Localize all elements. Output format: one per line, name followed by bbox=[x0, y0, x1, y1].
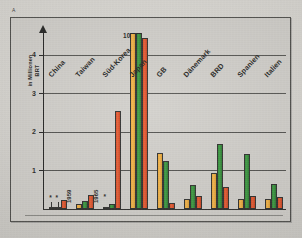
y-axis-tick-label: 2 bbox=[25, 128, 36, 135]
tiny-bar-marker bbox=[51, 202, 52, 208]
value-annotation: 10 bbox=[123, 33, 130, 39]
x-axis-baseline bbox=[43, 209, 286, 210]
y-axis-tick-label: 4 bbox=[25, 51, 36, 58]
bar bbox=[238, 199, 244, 209]
bar bbox=[130, 33, 136, 209]
y-axis-tick-label: 3 bbox=[25, 90, 36, 97]
bar bbox=[223, 187, 229, 208]
bar bbox=[109, 204, 115, 208]
plot-area: in Millionen BRT 1234 ChinaTaiwanSüd-Kor… bbox=[11, 18, 290, 221]
bar bbox=[163, 161, 169, 209]
y-axis-tick-label: 1 bbox=[25, 167, 36, 174]
tiny-bar-marker bbox=[58, 202, 59, 208]
bar bbox=[82, 201, 88, 209]
bar bbox=[169, 203, 175, 208]
figure-page: A in Millionen BRT 1234 ChinaTaiwanSüd-K… bbox=[0, 0, 302, 238]
bar bbox=[190, 185, 196, 208]
frame-bottom-rule bbox=[25, 215, 283, 216]
footnote-marker: * bbox=[104, 194, 107, 200]
bar bbox=[103, 207, 109, 209]
bar-group bbox=[43, 32, 70, 209]
footnote-marker: * bbox=[56, 195, 59, 201]
bar bbox=[244, 154, 250, 209]
figure-marker-label: A bbox=[12, 7, 16, 13]
year-label: 1965 bbox=[93, 189, 99, 202]
bar bbox=[217, 144, 223, 208]
bar bbox=[271, 184, 277, 209]
bar bbox=[184, 199, 190, 209]
bar-group bbox=[124, 32, 151, 209]
bar bbox=[115, 111, 121, 209]
bar bbox=[157, 153, 163, 209]
bar bbox=[250, 196, 256, 209]
bar-group bbox=[205, 32, 232, 209]
bar-group bbox=[151, 32, 178, 209]
bar-group bbox=[259, 32, 286, 209]
bar bbox=[265, 199, 271, 208]
bar bbox=[277, 197, 283, 208]
bar bbox=[196, 196, 202, 209]
bar bbox=[211, 173, 217, 209]
bar bbox=[76, 204, 82, 209]
year-label: 1959 bbox=[66, 189, 72, 202]
footnote-marker: * bbox=[49, 195, 52, 201]
chart-frame: in Millionen BRT 1234 ChinaTaiwanSüd-Kor… bbox=[10, 17, 291, 222]
